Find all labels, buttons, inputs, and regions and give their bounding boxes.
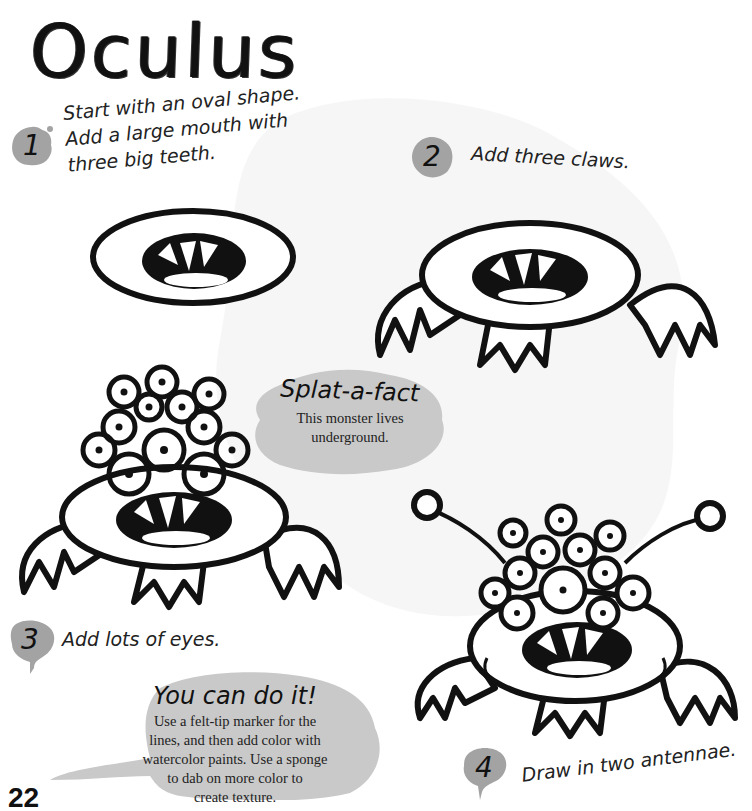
body-line: underground. bbox=[250, 428, 450, 447]
step-number: 2 bbox=[410, 135, 454, 179]
step-number: 3 bbox=[8, 618, 52, 662]
you-can-do-it-box: You can do it! Use a felt-tip marker for… bbox=[50, 668, 390, 800]
step-number: 4 bbox=[462, 746, 506, 790]
page-title: Oculus bbox=[28, 8, 301, 94]
splat-a-fact-box: Splat-a-fact This monster lives undergro… bbox=[250, 365, 450, 475]
body-line: lines, and then add color with bbox=[95, 731, 375, 750]
you-can-do-it-heading: You can do it! bbox=[95, 668, 375, 710]
step-3-text: Add lots of eyes. bbox=[62, 626, 220, 652]
step-4-badge: 4 bbox=[462, 746, 506, 790]
body-line: create texture. bbox=[95, 788, 375, 807]
step-number: 1 bbox=[10, 124, 54, 168]
you-can-do-it-body: Use a felt-tip marker for the lines, and… bbox=[95, 710, 375, 807]
step-text-line: Add lots of eyes. bbox=[62, 626, 220, 652]
splat-a-fact-body: This monster lives underground. bbox=[250, 405, 450, 447]
step-1-drawing-oval-mouth bbox=[88, 205, 298, 315]
splat-a-fact-heading: Splat-a-fact bbox=[249, 362, 450, 409]
body-line: to dab on more color to bbox=[95, 769, 375, 788]
body-line: Use a felt-tip marker for the bbox=[95, 712, 375, 731]
body-line: This monster lives bbox=[250, 409, 450, 428]
step-2-drawing-claws bbox=[360, 205, 730, 375]
step-1-badge: 1 bbox=[10, 124, 54, 168]
step-3-badge: 3 bbox=[8, 618, 52, 662]
step-2-badge: 2 bbox=[410, 135, 454, 179]
body-line: watercolor paints. Use a sponge bbox=[95, 750, 375, 769]
page-number: 22 bbox=[8, 784, 39, 811]
step-4-drawing-antennae bbox=[405, 478, 750, 748]
